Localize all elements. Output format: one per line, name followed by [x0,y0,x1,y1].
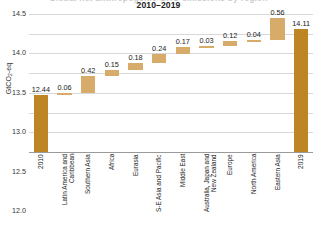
bar-rect [152,54,166,63]
bar-value-label: 0.04 [247,30,261,39]
y-axis-label-sub: 2 [7,73,13,76]
bar-value-label: 12.44 [32,85,50,94]
x-axis-tick-label: Middle East [179,154,195,224]
bar[interactable]: 12.44 [34,14,48,152]
plot-area: 14.514.013.513.012.512.011.511.012.440.0… [29,14,313,152]
axis-baseline: 11.0 [29,152,313,153]
x-axis-tick-label: Southern Asia [84,154,100,224]
y-axis-tick-label: 14.5 [0,9,26,18]
bar-rect [105,70,119,76]
bar-rect [223,41,237,46]
x-axis-tick-label: Eurasia [132,154,148,224]
bar-value-label: 0.42 [81,66,95,75]
bar-rect [81,76,95,93]
x-axis-tick-label: Africa [108,154,124,224]
y-axis-label-tail: -eq [5,63,12,73]
bar[interactable]: 0.04 [247,14,261,152]
bar-value-label: 0.03 [199,36,213,45]
bar-rect [199,46,213,48]
bar-value-label: 0.06 [57,83,71,92]
y-axis-label: GtCO2-eq [5,52,12,106]
x-axis-tick-label: 2010 [37,154,53,224]
bar-value-label: 0.24 [152,44,166,53]
bar[interactable]: 0.17 [176,14,190,152]
bar-rect [294,29,308,152]
y-axis-tick-label: 12.0 [0,206,26,215]
bar[interactable]: 0.18 [128,14,142,152]
x-axis-tick-label: Europe [226,154,242,224]
x-axis-tick-label: Latin America and Caribbean [61,154,77,224]
bar[interactable]: 14.11 [294,14,308,152]
bar-value-label: 0.18 [128,53,142,62]
bar[interactable]: 0.06 [57,14,71,152]
bar[interactable]: 0.42 [81,14,95,152]
x-axis-tick-label: Australia, Japan and New Zealand [203,154,219,224]
y-axis-tick-label: 13.5 [0,88,26,97]
x-axis-tick-label: S-E Asia and Pacific [155,154,171,224]
bar-rect [176,47,190,54]
bar[interactable]: 0.15 [105,14,119,152]
bar-rect [34,95,48,152]
bar[interactable]: 0.12 [223,14,237,152]
bar[interactable]: 0.56 [270,14,284,152]
bar-value-label: 14.11 [292,19,310,28]
waterfall-chart: Global net anthropogenic GHG emissions b… [0,0,317,226]
bar-value-label: 0.12 [223,31,237,40]
x-axis-labels: 2010Latin America and CaribbeanSouthern … [29,154,313,226]
bar[interactable]: 0.03 [199,14,213,152]
y-axis-tick-label: 14.0 [0,48,26,57]
y-axis-tick-label: 12.5 [0,167,26,176]
bar-rect [57,93,71,95]
x-axis-tick-label: 2019 [297,154,313,224]
bar[interactable]: 0.24 [152,14,166,152]
bar-value-label: 0.17 [176,37,190,46]
x-axis-tick-label: North America [250,154,266,224]
y-axis-tick-label: 13.0 [0,127,26,136]
bar-rect [247,40,261,42]
bar-rect [128,63,142,70]
bar-value-label: 0.15 [105,60,119,69]
bar-value-label: 0.56 [270,8,284,17]
bar-rect [270,18,284,40]
x-axis-tick-label: Eastern Asia [274,154,290,224]
